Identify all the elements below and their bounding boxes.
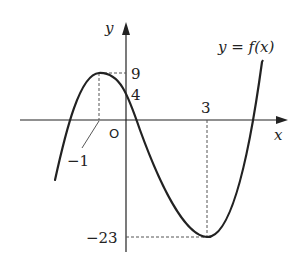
x-axis-arrow-icon <box>276 116 288 124</box>
curve-label: y = f(x) <box>217 38 274 56</box>
function-graph: y x O 9 4 −23 −1 3 y = f(x) <box>0 0 303 257</box>
origin-label: O <box>109 126 119 141</box>
y-axis-label: y <box>104 19 114 37</box>
cubic-curve <box>55 62 262 237</box>
x-min-label: 3 <box>201 99 211 117</box>
y-intercept-label: 4 <box>131 86 141 104</box>
minus-one-leader <box>82 121 99 148</box>
y-axis-arrow-icon <box>122 22 130 35</box>
y-max-label: 9 <box>131 65 141 83</box>
x-axis-label: x <box>274 126 283 144</box>
curve-label-leader <box>262 60 263 62</box>
x-max-label: −1 <box>67 152 89 170</box>
y-min-label: −23 <box>86 229 118 247</box>
